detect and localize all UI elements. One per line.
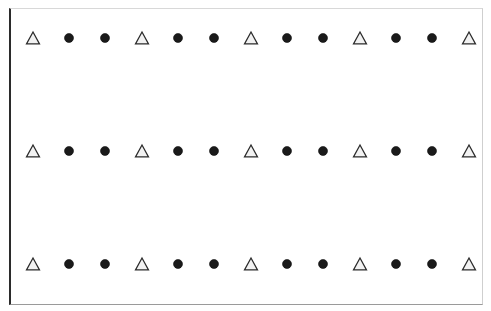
filled-circle-marker bbox=[390, 258, 403, 271]
open-triangle-marker bbox=[134, 256, 151, 272]
filled-circle-marker bbox=[99, 32, 112, 45]
open-triangle-marker bbox=[461, 256, 478, 272]
filled-circle-marker bbox=[99, 145, 112, 158]
open-triangle-marker bbox=[25, 256, 42, 272]
open-triangle-marker bbox=[243, 30, 260, 46]
filled-circle-marker bbox=[281, 258, 294, 271]
filled-circle-marker bbox=[426, 32, 439, 45]
filled-circle-marker bbox=[390, 145, 403, 158]
filled-circle-marker bbox=[63, 258, 76, 271]
filled-circle-marker bbox=[172, 258, 185, 271]
filled-circle-marker bbox=[426, 258, 439, 271]
open-triangle-marker bbox=[134, 143, 151, 159]
open-triangle-marker bbox=[352, 143, 369, 159]
filled-circle-marker bbox=[63, 145, 76, 158]
filled-circle-marker bbox=[281, 32, 294, 45]
filled-circle-marker bbox=[208, 145, 221, 158]
open-triangle-marker bbox=[134, 30, 151, 46]
open-triangle-marker bbox=[461, 30, 478, 46]
filled-circle-marker bbox=[317, 32, 330, 45]
open-triangle-marker bbox=[352, 256, 369, 272]
figure-canvas bbox=[0, 0, 491, 311]
filled-circle-marker bbox=[172, 145, 185, 158]
plot-surface bbox=[11, 9, 485, 306]
filled-circle-marker bbox=[172, 32, 185, 45]
open-triangle-marker bbox=[25, 30, 42, 46]
open-triangle-marker bbox=[243, 256, 260, 272]
open-triangle-marker bbox=[25, 143, 42, 159]
filled-circle-marker bbox=[390, 32, 403, 45]
open-triangle-marker bbox=[461, 143, 478, 159]
open-triangle-marker bbox=[352, 30, 369, 46]
filled-circle-marker bbox=[281, 145, 294, 158]
filled-circle-marker bbox=[317, 145, 330, 158]
filled-circle-marker bbox=[317, 258, 330, 271]
filled-circle-marker bbox=[208, 32, 221, 45]
plot-frame bbox=[9, 8, 483, 305]
filled-circle-marker bbox=[63, 32, 76, 45]
filled-circle-marker bbox=[99, 258, 112, 271]
filled-circle-marker bbox=[426, 145, 439, 158]
filled-circle-marker bbox=[208, 258, 221, 271]
open-triangle-marker bbox=[243, 143, 260, 159]
